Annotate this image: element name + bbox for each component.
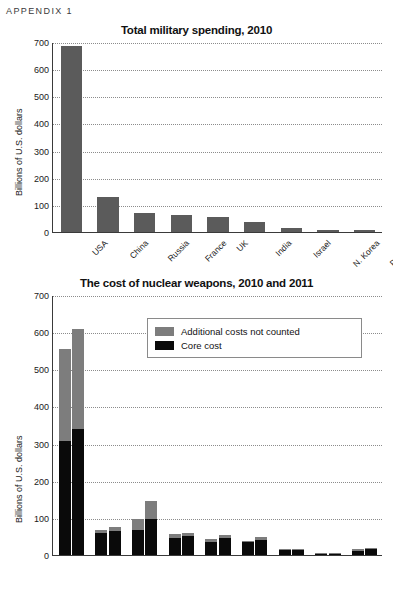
bar-russia xyxy=(134,213,155,232)
segment-core-cost xyxy=(255,540,267,555)
bar-israel-2011 xyxy=(292,549,304,555)
segment-additional-costs xyxy=(109,527,121,531)
bar-russia-2010 xyxy=(132,519,144,555)
bar-uk xyxy=(207,217,228,232)
y-axis-tick: 700 xyxy=(19,38,49,48)
gridline xyxy=(53,124,382,125)
chart1-plot-area: 0100200300400500600700 xyxy=(52,43,382,233)
x-axis-tick-label: N. Korea xyxy=(351,238,382,269)
segment-core-cost xyxy=(329,554,341,555)
bar-nkorea-2011 xyxy=(329,553,341,555)
segment-core-cost xyxy=(109,531,121,555)
segment-core-cost xyxy=(205,542,217,555)
x-axis-tick-label: Israel xyxy=(311,238,333,260)
bar-uk-2010 xyxy=(205,539,217,555)
bar-china-2010 xyxy=(95,530,107,555)
segment-additional-costs xyxy=(315,553,327,554)
bar-usa xyxy=(61,46,82,232)
gridline xyxy=(53,97,382,98)
segment-core-cost xyxy=(132,530,144,555)
y-axis-tick: 300 xyxy=(19,440,49,450)
x-axis-tick-label: India xyxy=(273,238,293,258)
y-axis-tick: 0 xyxy=(19,228,49,238)
bar-nkorea xyxy=(317,230,338,232)
segment-core-cost xyxy=(279,550,291,555)
bar-nkorea-2010 xyxy=(315,553,327,555)
segment-additional-costs xyxy=(95,530,107,534)
gridline xyxy=(53,152,382,153)
bar-india xyxy=(244,222,265,232)
segment-core-cost xyxy=(169,538,181,555)
bar-china xyxy=(97,197,118,232)
bar-india-2011 xyxy=(255,537,267,555)
y-axis-tick: 700 xyxy=(19,291,49,301)
segment-additional-costs xyxy=(242,541,254,542)
segment-core-cost xyxy=(292,549,304,555)
chart1-title: Total military spending, 2010 xyxy=(0,24,393,36)
y-axis-tick: 400 xyxy=(19,119,49,129)
bar-pakistan-2010 xyxy=(352,549,364,555)
bar-pakistan xyxy=(354,230,375,232)
legend-item: Additional costs not counted xyxy=(155,324,353,338)
legend-swatch-icon xyxy=(155,327,174,336)
y-axis-tick: 600 xyxy=(19,328,49,338)
appendix-page: APPENDIX 1 Total military spending, 2010… xyxy=(0,0,393,613)
segment-additional-costs xyxy=(169,534,181,538)
segment-core-cost xyxy=(242,542,254,555)
x-axis-tick-label: USA xyxy=(90,238,109,257)
x-axis-tick-label: China xyxy=(128,238,151,261)
bar-china-2011 xyxy=(109,527,121,555)
segment-core-cost xyxy=(352,551,364,555)
segment-core-cost xyxy=(365,549,377,555)
bar-india-2010 xyxy=(242,541,254,555)
gridline xyxy=(53,296,382,297)
segment-core-cost xyxy=(59,441,71,555)
gridline xyxy=(53,482,382,483)
chart2-title: The cost of nuclear weapons, 2010 and 20… xyxy=(0,277,393,289)
chart-total-military-spending: Total military spending, 2010 Billions o… xyxy=(0,0,393,270)
bar-france-2011 xyxy=(182,533,194,555)
legend-label: Additional costs not counted xyxy=(181,326,300,337)
segment-additional-costs xyxy=(352,549,364,551)
y-axis-tick: 100 xyxy=(19,514,49,524)
chart-cost-of-nuclear-weapons: The cost of nuclear weapons, 2010 and 20… xyxy=(0,268,393,613)
bar-russia-2011 xyxy=(145,501,157,555)
x-axis-tick-label: Pakistan xyxy=(388,238,393,268)
segment-additional-costs xyxy=(205,539,217,542)
y-axis-tick: 100 xyxy=(19,201,49,211)
segment-additional-costs xyxy=(145,501,157,519)
bar-france xyxy=(171,215,192,232)
segment-additional-costs xyxy=(255,537,267,540)
segment-additional-costs xyxy=(279,549,291,550)
segment-additional-costs xyxy=(182,533,194,536)
y-axis-tick: 400 xyxy=(19,402,49,412)
segment-additional-costs xyxy=(72,329,84,429)
segment-additional-costs xyxy=(292,549,304,550)
segment-additional-costs xyxy=(329,553,341,554)
y-axis-tick: 500 xyxy=(19,365,49,375)
segment-core-cost xyxy=(315,554,327,555)
y-axis-tick: 500 xyxy=(19,92,49,102)
gridline xyxy=(53,407,382,408)
bar-israel xyxy=(281,228,302,232)
segment-core-cost xyxy=(72,429,84,555)
segment-core-cost xyxy=(219,538,231,555)
bar-france-2010 xyxy=(169,534,181,555)
gridline xyxy=(53,370,382,371)
segment-additional-costs xyxy=(59,349,71,441)
gridline xyxy=(53,43,382,44)
gridline xyxy=(53,179,382,180)
segment-core-cost xyxy=(182,536,194,555)
x-axis-tick-label: Russia xyxy=(166,238,191,263)
gridline xyxy=(53,70,382,71)
y-axis-tick: 200 xyxy=(19,477,49,487)
y-axis-tick: 200 xyxy=(19,174,49,184)
gridline xyxy=(53,445,382,446)
bar-usa-2010 xyxy=(59,349,71,555)
legend-swatch-icon xyxy=(155,341,174,350)
segment-additional-costs xyxy=(365,548,377,549)
y-axis-tick: 0 xyxy=(19,551,49,561)
legend-label: Core cost xyxy=(181,340,222,351)
bar-pakistan-2011 xyxy=(365,548,377,555)
chart2-legend: Additional costs not countedCore cost xyxy=(147,318,362,358)
